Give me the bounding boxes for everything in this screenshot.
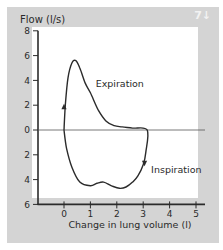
- y-tick-label: 4: [24, 175, 30, 185]
- y-tick-label: 2: [24, 100, 30, 110]
- x-axis-label: Change in lung volume (l): [45, 219, 215, 230]
- annotation-inspiration: Inspiration: [151, 164, 201, 175]
- annotations: ExpirationInspiration: [96, 78, 202, 176]
- y-tick-label: 8: [24, 26, 30, 36]
- y-tick-label: 2: [24, 150, 30, 160]
- x-tick-label: 4: [167, 209, 173, 219]
- x-tick-label: 3: [140, 209, 146, 219]
- x-tick-label: 0: [61, 209, 67, 219]
- annotation-expiration: Expiration: [96, 78, 144, 89]
- x-tick-label: 1: [88, 209, 94, 219]
- flow-volume-chart: 86420246012345 ExpirationInspiration: [0, 0, 223, 250]
- y-tick-label: 6: [24, 200, 30, 210]
- y-tick-label: 4: [24, 76, 30, 86]
- axes: [38, 31, 206, 205]
- direction-arrows: [61, 104, 147, 167]
- y-tick-label: 6: [24, 51, 30, 61]
- x-tick-label: 2: [114, 209, 120, 219]
- y-tick-label: 0: [24, 125, 30, 135]
- x-tick-label: 5: [193, 209, 199, 219]
- ticks: 86420246012345: [24, 26, 199, 219]
